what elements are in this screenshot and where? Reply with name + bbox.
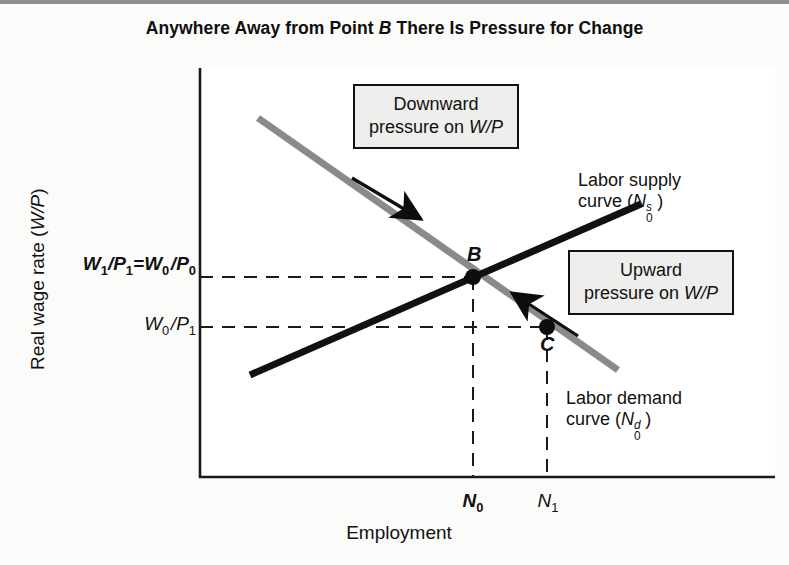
y-tick-label-lower-real-wage: W0 /P1 [144, 313, 196, 338]
point-c-label: C [540, 333, 554, 357]
callout-upward-pressure-line1: Upward [584, 259, 718, 282]
y-axis-title-symbol: W/P [27, 195, 48, 231]
y-tick-label-equilibrium-real-wage: W1/P1=W0 /P0 [83, 253, 196, 278]
point-b-label: B [467, 243, 481, 267]
x-tick-label-employment-n1: N1 [538, 490, 559, 515]
labor-supply-curve-label-line2: curve (Ns0) [578, 191, 681, 212]
x-axis-title: Employment [346, 522, 452, 544]
callout-upward-pressure-line2: pressure on W/P [584, 282, 718, 305]
callout-downward-pressure-line2: pressure on W/P [369, 116, 503, 139]
labor-demand-curve-label: Labor demand curve (Nd0) [566, 388, 682, 430]
labor-demand-curve-label-line1: Labor demand [566, 388, 682, 409]
y-axis-title-prefix: Real wage rate ( [27, 231, 48, 370]
callout-downward-pressure-line1: Downward [369, 93, 503, 116]
x-tick-label-employment-n0: N0 [463, 490, 484, 515]
y-axis-title-suffix: ) [27, 188, 48, 194]
labor-supply-curve-label-line1: Labor supply [578, 170, 681, 191]
figure-container: Anywhere Away from Point B There Is Pres… [0, 0, 789, 565]
point-b-marker [465, 269, 481, 285]
y-axis-title: Real wage rate (W/P) [27, 149, 49, 409]
labor-demand-curve-label-line2: curve (Nd0) [566, 409, 682, 430]
callout-downward-pressure: Downward pressure on W/P [353, 84, 519, 149]
labor-supply-curve-label: Labor supply curve (Ns0) [578, 170, 681, 212]
callout-upward-pressure: Upward pressure on W/P [568, 250, 734, 315]
